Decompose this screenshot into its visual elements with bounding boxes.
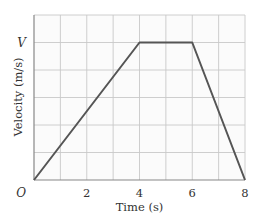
x-tick-label-2: 2	[83, 186, 90, 200]
x-tick-label-origin: O	[16, 186, 26, 200]
y-tick-label-v: V	[17, 36, 27, 50]
x-axis-title: Time (s)	[116, 200, 164, 214]
velocity-time-chart: V O 2 4 6 8 Time (s) Velocity (m/s)	[0, 0, 257, 216]
x-tick-label-4: 4	[136, 186, 143, 200]
x-tick-label-6: 6	[189, 186, 196, 200]
x-tick-label-8: 8	[241, 186, 248, 200]
y-axis-title: Velocity (m/s)	[11, 57, 25, 137]
